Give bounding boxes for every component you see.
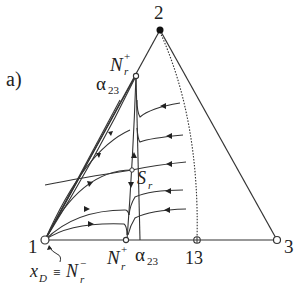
svg-text:N: N: [65, 261, 79, 281]
vertex-1-node: [41, 236, 49, 244]
azeotrope-13-label: 13: [185, 248, 203, 268]
svg-text:−: −: [80, 257, 86, 269]
vertex-1-label: 1: [28, 236, 38, 257]
azeotrope-13-node: [194, 237, 201, 244]
vertex-2-label: 2: [154, 2, 164, 23]
panel-label: a): [6, 68, 22, 91]
svg-text:+: +: [124, 50, 130, 62]
svg-text:23: 23: [147, 255, 159, 267]
vertex-3-node: [274, 237, 281, 244]
svg-text:D: D: [38, 272, 47, 284]
vertex-3-label: 3: [284, 236, 294, 257]
triangle-edges: [45, 30, 277, 240]
svg-text:α: α: [96, 73, 106, 94]
svg-text:23: 23: [108, 84, 120, 96]
svg-text:x: x: [29, 261, 38, 281]
saddle-node: [130, 168, 134, 172]
svg-text:r: r: [124, 65, 129, 77]
svg-text:N: N: [109, 54, 124, 75]
saddle-label: S r: [137, 168, 153, 191]
ternary-diagram: a) 2 1 3 13 N + r α 23 S r N + r α 23 x …: [0, 0, 301, 292]
trajectories-right: [45, 100, 186, 235]
alpha23-bottom-label: α 23: [135, 244, 159, 267]
nr-plus-bottom-node: [123, 237, 128, 242]
nr-plus-top-label: N + r: [109, 50, 130, 77]
svg-text:+: +: [121, 243, 127, 255]
svg-text:α: α: [135, 244, 145, 265]
vertex-2-node: [157, 27, 164, 34]
svg-text:r: r: [121, 260, 126, 272]
nr-plus-top-node: [133, 73, 138, 78]
alpha23-top-label: α 23: [96, 73, 120, 96]
xd-label: x D ≡ N − r: [29, 257, 86, 285]
svg-text:S: S: [137, 168, 146, 188]
nr-plus-bottom-label: N + r: [106, 243, 127, 272]
svg-text:N: N: [106, 247, 121, 268]
svg-text:≡: ≡: [53, 265, 60, 280]
svg-text:r: r: [148, 179, 153, 191]
svg-text:r: r: [80, 273, 85, 285]
